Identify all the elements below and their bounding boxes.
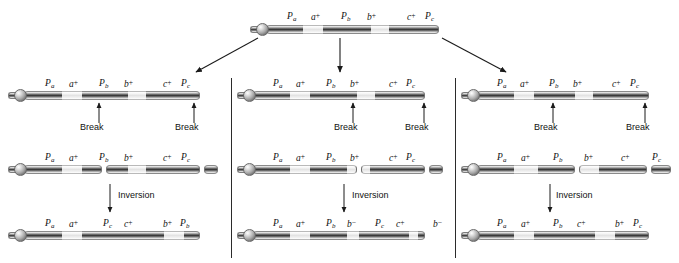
label-c: c+ (124, 218, 133, 229)
label-Pc: Pc (406, 78, 415, 90)
label-Pa: Pa (45, 78, 55, 90)
label-Pb: Pb (180, 218, 190, 230)
label-Pb: Pb (553, 152, 563, 164)
label-Pb: Pb (99, 78, 109, 90)
centromere (14, 229, 27, 242)
segment-Pa (477, 231, 514, 240)
label-a: a+ (521, 218, 530, 229)
centromere (14, 89, 27, 102)
segment-a (290, 165, 310, 174)
segment-c-Pc (370, 165, 425, 174)
centromere (243, 229, 256, 242)
label-c: c+ (621, 152, 630, 163)
segment-Pa (253, 91, 290, 100)
segment-Pb (534, 91, 575, 100)
segment-a (62, 231, 82, 240)
inversion-label: Inversion (556, 190, 593, 200)
chromosome-fragment-1 (253, 165, 357, 174)
segment-Pa (24, 91, 62, 100)
segment-terminal (204, 165, 218, 174)
segment-c (599, 165, 647, 174)
label-a: a+ (311, 11, 320, 22)
label-Pb: Pb (326, 152, 336, 164)
label-Pc: Pc (103, 218, 112, 230)
label-c: c+ (163, 78, 172, 89)
label-c: c+ (577, 218, 586, 229)
segment-Pc (615, 231, 649, 240)
label-Pb: Pb (326, 78, 336, 90)
break-arrows (455, 100, 679, 124)
label-b-minus-2: b− (433, 218, 442, 229)
inversion-arrow-wrap (0, 182, 231, 214)
label-b: b+ (584, 152, 593, 163)
segment-Pa (253, 165, 290, 174)
label-c: c+ (389, 152, 398, 163)
label-Pc: Pc (406, 152, 415, 164)
segment-b (579, 165, 599, 174)
segment-a (303, 25, 323, 34)
label-Pa: Pa (497, 152, 507, 164)
inversion-label: Inversion (118, 190, 155, 200)
segment-b-minus-2 (409, 231, 418, 240)
label-Pa: Pa (273, 218, 283, 230)
label-Pb: Pb (99, 152, 109, 164)
chromosome-fragment-2 (106, 165, 200, 174)
inversion-diagram: Pa a+ Pb b+ c+ Pc (0, 0, 679, 263)
label-Pc: Pc (425, 11, 434, 23)
segment-terminal (429, 165, 443, 174)
break-label-2: Break (626, 122, 650, 132)
label-Pa: Pa (287, 11, 297, 23)
segment-b (371, 25, 389, 34)
label-a: a+ (296, 218, 305, 229)
segment-Pb-c (534, 231, 595, 240)
label-b: b+ (124, 152, 133, 163)
centromere (467, 163, 480, 176)
segment-a (514, 231, 534, 240)
segment-Pa (253, 231, 290, 240)
label-Pc: Pc (633, 218, 642, 230)
segment-c-Pc (146, 91, 200, 100)
segment-b-minus-1 (347, 231, 359, 240)
label-Pc: Pc (375, 218, 384, 230)
chromosome-bar (477, 91, 649, 100)
segment-Pb (82, 91, 128, 100)
chromosome-bar (24, 91, 200, 100)
label-c: c+ (163, 152, 172, 163)
label-b: b+ (350, 78, 359, 89)
segment-a (62, 91, 82, 100)
segment-b-right (361, 165, 370, 174)
segment-Pb (323, 25, 371, 34)
parent-chromosome-bar (266, 25, 439, 34)
break-arrows (0, 100, 231, 124)
label-Pa: Pa (273, 78, 283, 90)
label-b: b+ (573, 78, 582, 89)
break-label-2: Break (175, 122, 199, 132)
label-b: b+ (615, 218, 624, 229)
segment-a (290, 231, 310, 240)
segment-Pc (651, 165, 671, 174)
segment-a (514, 91, 534, 100)
chromosome-fragment-3 (651, 165, 671, 174)
break-label-1: Break (80, 122, 104, 132)
branch-arrows (0, 36, 679, 78)
label-c: c+ (389, 78, 398, 89)
label-Pb: Pb (553, 218, 563, 230)
segment-a (514, 165, 538, 174)
segment-b (128, 91, 146, 100)
branch-arrow-right (442, 38, 506, 72)
label-c: c+ (396, 218, 405, 229)
branch-arrow-left (196, 38, 258, 72)
segment-b (575, 91, 593, 100)
segment-terminal (418, 231, 425, 240)
segment-a (62, 165, 82, 174)
label-a: a+ (521, 152, 530, 163)
segment-Pa (24, 231, 62, 240)
segment-Pb-right (106, 165, 128, 174)
label-b: b+ (124, 78, 133, 89)
segment-c-Pc (375, 91, 425, 100)
segment-a (290, 91, 310, 100)
label-a: a+ (69, 152, 78, 163)
segment-c-Pc (389, 25, 439, 34)
break-label-1: Break (534, 122, 558, 132)
chromosome-fragment-1 (477, 165, 575, 174)
